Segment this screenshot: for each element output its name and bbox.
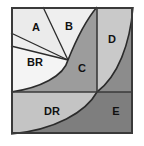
- region-label-DR: DR: [44, 105, 60, 117]
- region-label-B: B: [65, 20, 73, 32]
- region-label-BR: BR: [27, 56, 43, 68]
- figure-canvas: A B BR C D DR E: [0, 0, 144, 146]
- region-label-C: C: [78, 62, 86, 74]
- region-label-E: E: [112, 105, 119, 117]
- region-label-A: A: [32, 21, 40, 33]
- region-label-D: D: [108, 33, 116, 45]
- spiral-square-figure: A B BR C D DR E: [0, 0, 144, 146]
